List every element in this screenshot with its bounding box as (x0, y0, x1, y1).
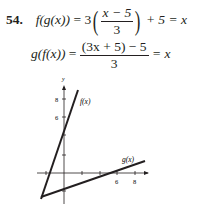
function-graph: y 6 8 8 6 f(x) g(x) (0, 0, 201, 209)
x-tick-label-6: 6 (115, 178, 119, 185)
g-of-x-label: g(x) (122, 155, 135, 164)
g-of-x-line (41, 161, 145, 197)
f-of-x-label: f(x) (80, 97, 91, 106)
y-tick-label-6: 6 (55, 114, 59, 121)
x-axis (37, 171, 149, 175)
y-axis (62, 85, 66, 204)
f-of-x-line (41, 90, 78, 199)
y-tick-label-8: 8 (55, 96, 58, 103)
y-axis-label: y (61, 76, 65, 82)
x-tick-label-8: 8 (133, 178, 136, 185)
